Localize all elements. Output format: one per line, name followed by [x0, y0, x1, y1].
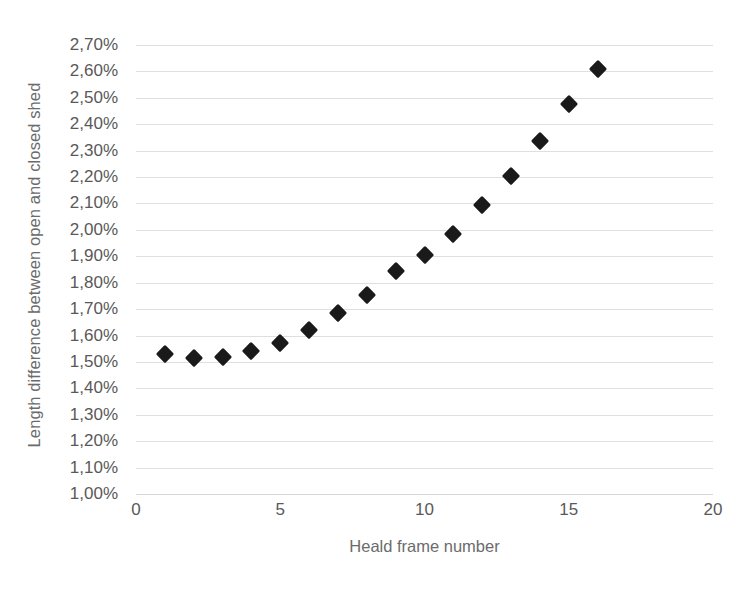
data-point-marker	[531, 132, 549, 150]
y-axis-tick-label: 1,20%	[70, 431, 118, 451]
data-point-marker	[358, 285, 376, 303]
data-point-marker	[444, 225, 462, 243]
gridline	[136, 388, 713, 389]
gridline	[136, 98, 713, 99]
y-axis-tick-label: 2,70%	[70, 35, 118, 55]
y-axis-tick-label: 2,00%	[70, 220, 118, 240]
gridline	[136, 415, 713, 416]
data-point-marker	[156, 345, 174, 363]
gridline	[136, 177, 713, 178]
y-axis-tick-label-group: 1,00%1,10%1,20%1,30%1,40%1,50%1,60%1,70%…	[52, 45, 126, 494]
y-axis-tick-label: 1,00%	[70, 484, 118, 504]
data-point-marker	[415, 246, 433, 264]
gridline	[136, 45, 713, 46]
x-axis-title: Heald frame number	[136, 537, 713, 556]
data-point-marker	[242, 342, 260, 360]
y-axis-tick-label: 2,30%	[70, 141, 118, 161]
y-axis-tick-label: 1,10%	[70, 458, 118, 478]
y-axis-tick-label: 1,80%	[70, 273, 118, 293]
y-axis-tick-label: 2,60%	[70, 61, 118, 81]
gridline	[136, 230, 713, 231]
y-axis-tick-label: 1,70%	[70, 299, 118, 319]
x-axis-tick-label: 5	[276, 500, 285, 520]
x-axis-tick-label-group: 05101520	[136, 500, 713, 526]
x-axis-tick-label: 0	[131, 500, 140, 520]
data-point-marker	[386, 262, 404, 280]
data-point-marker	[271, 334, 289, 352]
data-point-marker	[184, 349, 202, 367]
gridline	[136, 124, 713, 125]
data-point-marker	[213, 347, 231, 365]
gridline	[136, 151, 713, 152]
gridline	[136, 71, 713, 72]
y-axis-tick-label: 1,50%	[70, 352, 118, 372]
gridline	[136, 283, 713, 284]
gridline	[136, 441, 713, 442]
data-point-marker	[588, 60, 606, 78]
data-point-marker	[473, 196, 491, 214]
y-axis-tick-label: 1,30%	[70, 405, 118, 425]
y-axis-tick-label: 2,20%	[70, 167, 118, 187]
plot-area	[136, 45, 713, 494]
gridline	[136, 309, 713, 310]
x-axis-tick-label: 15	[559, 500, 578, 520]
chart-page: Length difference between open and close…	[0, 0, 748, 602]
gridline	[136, 203, 713, 204]
y-axis-tick-label: 1,40%	[70, 378, 118, 398]
y-axis-tick-label: 2,40%	[70, 114, 118, 134]
y-axis-tick-label: 2,50%	[70, 88, 118, 108]
data-point-marker	[329, 304, 347, 322]
gridline	[136, 494, 713, 495]
bottom-cropped-caption	[0, 590, 748, 602]
y-axis-tick-label: 1,60%	[70, 326, 118, 346]
gridline	[136, 468, 713, 469]
data-point-marker	[502, 167, 520, 185]
y-axis-tick-label: 2,10%	[70, 193, 118, 213]
data-point-marker	[300, 321, 318, 339]
x-axis-tick-label: 20	[704, 500, 723, 520]
gridline	[136, 336, 713, 337]
y-axis-title: Length difference between open and close…	[14, 30, 54, 500]
x-axis-tick-label: 10	[415, 500, 434, 520]
y-axis-tick-label: 1,90%	[70, 246, 118, 266]
